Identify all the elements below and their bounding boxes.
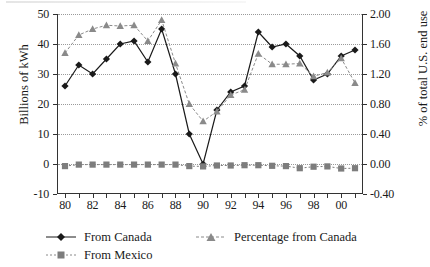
square-data-point	[338, 165, 344, 171]
triangle-data-point	[75, 31, 82, 38]
triangle-data-point	[61, 49, 68, 56]
legend-item-from-canada[interactable]: From Canada	[46, 230, 196, 244]
square-data-point	[76, 162, 82, 168]
series-line	[65, 29, 355, 164]
square-data-point	[62, 163, 68, 169]
legend-label-from-canada: From Canada	[84, 230, 152, 244]
triangle-data-point	[351, 79, 358, 86]
square-data-point	[324, 163, 330, 169]
square-data-point	[297, 165, 303, 171]
triangle-data-point	[117, 22, 124, 29]
triangle-data-point	[186, 100, 193, 107]
square-data-point	[255, 162, 261, 168]
diamond-data-point	[61, 82, 68, 89]
square-data-point	[172, 162, 178, 168]
diamond-data-point	[144, 58, 151, 65]
square-marker-icon	[46, 249, 76, 261]
square-data-point	[283, 163, 289, 169]
square-data-point	[214, 162, 220, 168]
square-data-point	[131, 162, 137, 168]
square-data-point	[117, 162, 123, 168]
triangle-data-point	[103, 21, 110, 28]
chart-legend: From Canada Percentage from Canada	[46, 228, 416, 264]
square-data-point	[352, 165, 358, 171]
diamond-data-point	[351, 46, 358, 53]
square-data-point	[228, 162, 234, 168]
triangle-data-point	[268, 60, 275, 67]
square-data-point	[269, 163, 275, 169]
square-data-point	[186, 163, 192, 169]
series-from-mexico	[62, 162, 358, 172]
diamond-marker-icon	[46, 231, 76, 243]
series-line	[65, 20, 355, 121]
diamond-data-point	[186, 130, 193, 137]
square-data-point	[159, 162, 165, 168]
square-data-point	[310, 164, 316, 170]
diamond-data-point	[130, 37, 137, 44]
triangle-data-point	[172, 60, 179, 67]
series-from-canada	[61, 25, 358, 167]
square-data-point	[241, 162, 247, 168]
triangle-data-point	[255, 50, 262, 57]
square-data-point	[90, 162, 96, 168]
square-data-point	[200, 163, 206, 169]
legend-item-from-mexico[interactable]: From Mexico	[46, 248, 196, 262]
square-data-point	[145, 162, 151, 168]
legend-item-percentage-from-canada[interactable]: Percentage from Canada	[196, 230, 357, 244]
legend-label-from-mexico: From Mexico	[84, 248, 152, 262]
legend-label-percentage-from-canada: Percentage from Canada	[234, 230, 357, 244]
diamond-data-point	[172, 70, 179, 77]
square-data-point	[103, 162, 109, 168]
triangle-data-point	[130, 21, 137, 28]
series-percentage-from-canada	[61, 16, 358, 124]
triangle-marker-icon	[196, 231, 226, 243]
triangle-data-point	[158, 16, 165, 23]
diamond-data-point	[75, 61, 82, 68]
